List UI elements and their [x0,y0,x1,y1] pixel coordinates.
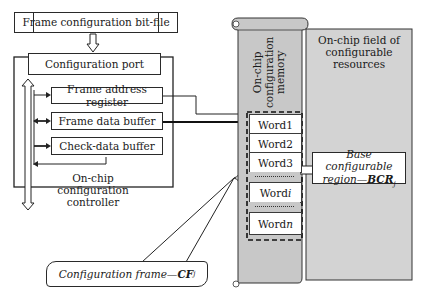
frame-address-register: Frame address register [51,87,163,104]
config-port-label: Configuration port [45,58,144,70]
bitfile-down-arrow-icon [87,34,99,52]
frame-data-buffer: Frame data buffer [51,112,163,130]
config-frame-callout: Configuration frame—CFj [46,261,208,287]
memory-word-3: Word 3 [249,152,302,173]
memory-ellipsis [249,172,300,181]
bidirectional-bus-arrow-icon [22,79,34,210]
memory-word-i: Word i [249,182,302,203]
config-port-box: Configuration port [28,53,161,75]
bcr-box: Base configurable region—BCRj [312,152,406,184]
memory-word-n: Word n [249,212,302,235]
field-label: On-chip field of configurable resources [306,34,412,70]
memory-word-1: Word 1 [249,114,302,135]
bitfile-label: Frame configuration bit-file [22,16,169,28]
bitfile-box: Frame configuration bit-file [14,12,178,33]
check-data-buffer: Check-data buffer [51,137,163,155]
memory-word-2: Word 2 [249,133,302,154]
controller-label: On-chip configuration controller [40,172,146,208]
memory-ellipsis [249,202,300,211]
memory-label: On-chip configuration memory [242,32,298,112]
